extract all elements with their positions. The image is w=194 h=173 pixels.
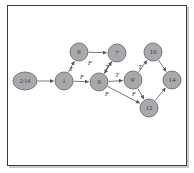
edge-label-n9p-n10: T [138,63,142,70]
edge-label-n1-n9: F [79,73,85,80]
node-label-12: 12 [146,104,154,112]
graph-edge-n9-to-n9p [108,81,122,82]
graph-edge-n12-to-n14 [155,88,165,101]
edge-label-n9-n7: T [105,63,109,70]
graph-edge-n9p-to-n12 [138,88,144,99]
edge-label-n9-n12: F [104,90,110,97]
node-label-6: 6 [77,48,81,56]
edge-label-n1-n6: T [69,65,73,72]
node-label-9: 9 [97,78,101,86]
edge-label-n9-n9p: T [115,71,119,78]
node-label-214: 2:14 [20,78,31,84]
node-label-7: 7 [115,49,119,57]
node-label-1: 1 [62,77,66,85]
graph-edge-n10-to-n14 [158,60,166,71]
node-label-10: 10 [150,48,158,56]
node-label-9: 9' [131,76,136,84]
edge-label-n7-n9: F [87,59,93,66]
directed-graph-canvas: TFFTTFTF 2:1416799'101412 [0,0,194,173]
figure-screenshot: TFFTTFTF 2:1416799'101412 [0,0,194,173]
node-label-14: 14 [169,76,177,84]
edge-label-n9p-n12: F [131,90,137,97]
